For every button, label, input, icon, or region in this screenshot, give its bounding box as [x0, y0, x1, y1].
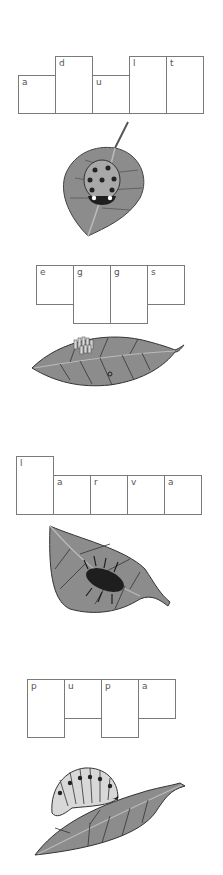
letter-box[interactable]: a: [18, 75, 56, 114]
letter-label: u: [96, 77, 102, 87]
letter-label: v: [131, 477, 136, 487]
letter-box[interactable]: a: [164, 475, 202, 515]
letter-label: t: [170, 58, 174, 68]
letter-box[interactable]: p: [27, 679, 65, 738]
letter-label: a: [22, 77, 28, 87]
letter-label: e: [40, 267, 46, 277]
letter-label: a: [57, 477, 63, 487]
letter-label: a: [168, 477, 174, 487]
ladybug-on-leaf-icon: [50, 118, 160, 243]
letter-box[interactable]: d: [55, 56, 93, 114]
letter-box[interactable]: s: [147, 265, 185, 305]
letter-box[interactable]: u: [92, 75, 130, 114]
letter-label: r: [94, 477, 98, 487]
letter-label: p: [105, 681, 111, 691]
letter-label: p: [31, 681, 37, 691]
letter-label: s: [151, 267, 156, 277]
letter-box[interactable]: e: [36, 265, 74, 305]
letter-box[interactable]: t: [166, 56, 204, 114]
letter-box[interactable]: u: [64, 679, 102, 719]
letter-box[interactable]: v: [127, 475, 165, 515]
letter-box[interactable]: a: [138, 679, 176, 719]
letter-label: l: [20, 458, 23, 468]
letter-label: l: [133, 58, 136, 68]
letter-box[interactable]: g: [73, 265, 111, 324]
letter-label: g: [114, 267, 120, 277]
letter-label: u: [68, 681, 74, 691]
letter-label: a: [142, 681, 148, 691]
letter-label: g: [77, 267, 83, 277]
eggs-on-leaf-icon: [30, 330, 190, 400]
letter-box[interactable]: r: [90, 475, 128, 515]
letter-box[interactable]: l: [129, 56, 167, 114]
letter-box[interactable]: g: [110, 265, 148, 324]
larva-on-leaf-icon: [40, 524, 175, 624]
letter-box[interactable]: l: [16, 456, 54, 515]
letter-label: d: [59, 58, 65, 68]
pupa-on-leaf-icon: [30, 758, 195, 858]
letter-box[interactable]: a: [53, 475, 91, 515]
letter-box[interactable]: p: [101, 679, 139, 738]
